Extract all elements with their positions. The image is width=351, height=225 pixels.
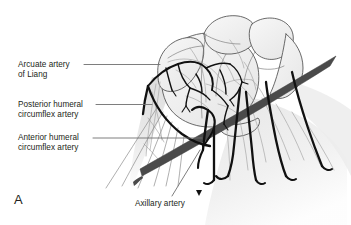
label-arcuate-artery-of-liang: Arcuate artery of Liang bbox=[18, 60, 70, 81]
arrow-marker bbox=[196, 190, 202, 196]
panel-letter: A bbox=[14, 192, 23, 207]
anatomical-figure-panel: Arcuate artery of Liang Posterior humera… bbox=[0, 0, 351, 225]
label-anterior-humeral-circumflex-artery: Anterior humeral circumflex artery bbox=[18, 133, 79, 154]
label-posterior-humeral-circumflex-artery: Posterior humeral circumflex artery bbox=[18, 100, 83, 121]
label-axillary-artery: Axillary artery bbox=[135, 199, 185, 209]
